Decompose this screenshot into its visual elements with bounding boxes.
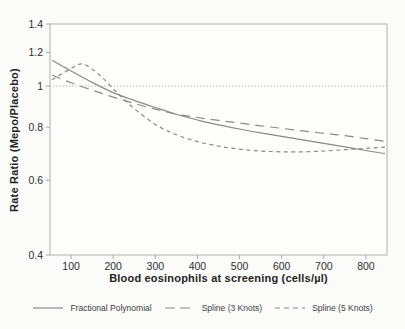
y-axis-tick-label: 1.4 (28, 18, 43, 30)
x-axis-tick-label: 600 (273, 260, 291, 272)
y-axis-title: Rate Ratio (Mepo/Placebo) (8, 68, 20, 212)
plot-area (50, 24, 387, 255)
figure: 1002003004005006007008000.40.60.811.21.4… (0, 0, 405, 329)
x-axis-tick-label: 200 (104, 260, 122, 272)
legend: Fractional PolynomialSpline (3 Knots)Spl… (0, 303, 405, 313)
legend-label: Spline (5 Knots) (312, 303, 372, 313)
x-axis-tick-label: 800 (357, 260, 375, 272)
y-axis-tick-label: 0.8 (28, 121, 43, 133)
legend-label: Fractional Polynomial (70, 303, 151, 313)
y-axis-tick-label: 1 (37, 80, 43, 92)
legend-label: Spline (3 Knots) (202, 303, 262, 313)
legend-item-spline-5-knots: Spline (5 Knots) (274, 303, 372, 313)
legend-line-sample-spline-3-knots (164, 304, 196, 312)
y-axis-tick-label: 0.6 (28, 174, 43, 186)
legend-line-sample-spline-5-knots (274, 304, 306, 312)
x-axis-tick-label: 700 (315, 260, 333, 272)
legend-line-sample-fractional-polynomial (32, 304, 64, 312)
legend-item-fractional-polynomial: Fractional Polynomial (32, 303, 151, 313)
x-axis-tick-label: 400 (189, 260, 207, 272)
x-axis-tick-label: 300 (147, 260, 165, 272)
x-axis-tick-label: 100 (62, 260, 80, 272)
x-axis-title: Blood eosinophils at screening (cells/µl… (50, 272, 387, 284)
x-axis-tick-label: 500 (231, 260, 249, 272)
y-axis-tick-label: 0.4 (28, 249, 43, 261)
y-axis-tick-label: 1.2 (28, 46, 43, 58)
legend-item-spline-3-knots: Spline (3 Knots) (164, 303, 262, 313)
